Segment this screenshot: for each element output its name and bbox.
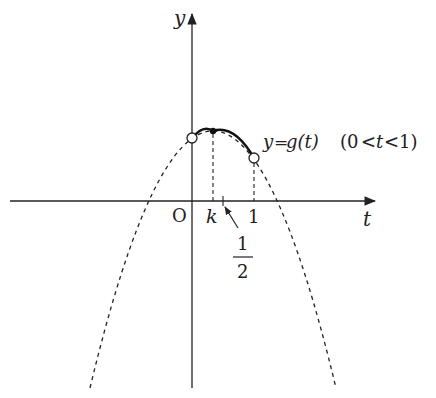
y-axis-label: y xyxy=(173,6,186,30)
svg-text:g(t): g(t) xyxy=(286,131,319,152)
vertex-point xyxy=(210,128,216,134)
one-label: 1 xyxy=(248,206,259,227)
graph-canvas: y t O k 1 1 2 y = g(t) (0 < t < 1) xyxy=(0,0,436,398)
open-point-start xyxy=(187,133,197,143)
svg-text:<: < xyxy=(384,131,399,152)
svg-text:t: t xyxy=(376,131,384,152)
curve-label: y = g(t) (0 < t < 1) xyxy=(262,131,417,152)
svg-text:(0: (0 xyxy=(340,131,358,152)
origin-label: O xyxy=(172,205,187,226)
half-pointer-arrow xyxy=(225,207,238,228)
k-label: k xyxy=(206,205,218,227)
half-numerator: 1 xyxy=(237,233,248,254)
svg-text:1): 1) xyxy=(399,131,417,152)
t-axis-label: t xyxy=(363,207,372,231)
svg-text:<: < xyxy=(361,131,376,152)
svg-text:y: y xyxy=(262,131,274,152)
open-point-end xyxy=(249,153,259,163)
half-denominator: 2 xyxy=(237,261,248,282)
